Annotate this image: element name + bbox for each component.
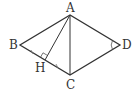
angle-arc-d (111, 41, 112, 50)
rhombus-figure: A B C D H (0, 0, 138, 102)
geometry-diagram: A B C D H (0, 0, 138, 102)
label-c: C (66, 78, 75, 92)
label-h: H (35, 61, 45, 75)
label-d: D (122, 38, 132, 52)
label-b: B (9, 38, 18, 52)
label-a: A (65, 1, 75, 15)
